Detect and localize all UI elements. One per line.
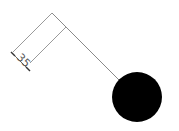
filled-circle-node xyxy=(112,72,162,122)
diagram-canvas: 35 xyxy=(0,0,179,131)
dimension-tick-start xyxy=(11,52,15,56)
dimension-label: 35 xyxy=(14,51,33,70)
extension-line-lower xyxy=(30,27,66,63)
geometry-segment-top xyxy=(52,13,66,27)
geometry-leg-line xyxy=(66,27,119,80)
dimension-tick-end xyxy=(26,67,30,71)
